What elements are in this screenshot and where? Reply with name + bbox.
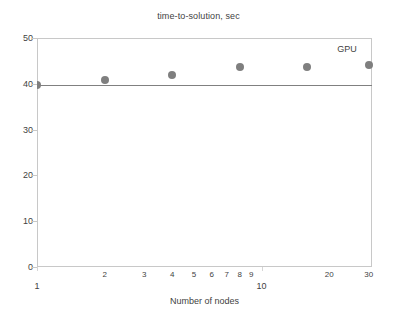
x-tick-label: 6 xyxy=(210,270,214,279)
data-point xyxy=(365,61,373,69)
x-tick-mark xyxy=(262,267,263,271)
series-annotation-gpu: GPU xyxy=(337,44,357,54)
y-tick-mark xyxy=(32,175,37,176)
x-tick-label: 3 xyxy=(142,270,146,279)
y-tick-mark xyxy=(32,221,37,222)
data-point xyxy=(236,63,244,71)
x-tick-label: 30 xyxy=(364,270,373,279)
x-tick-label: 8 xyxy=(238,270,242,279)
data-point xyxy=(37,81,41,89)
y-tick-mark xyxy=(32,130,37,131)
y-tick-mark xyxy=(32,267,37,268)
x-tick-label: 7 xyxy=(225,270,229,279)
x-axis-title: Number of nodes xyxy=(37,296,372,306)
data-point xyxy=(101,76,109,84)
y-tick-label: 10 xyxy=(9,216,33,226)
data-layer xyxy=(37,38,373,267)
y-tick-label: 40 xyxy=(9,79,33,89)
y-tick-label: 0 xyxy=(9,262,33,272)
chart-title: time-to-solution, sec xyxy=(0,11,397,21)
reference-line xyxy=(37,85,372,86)
x-tick-label: 2 xyxy=(102,270,106,279)
data-point xyxy=(168,71,176,79)
x-tick-label: 20 xyxy=(325,270,334,279)
x-tick-label: 4 xyxy=(170,270,174,279)
y-tick-mark xyxy=(32,38,37,39)
chart-container: time-to-solution, sec 01020304050 123456… xyxy=(0,0,397,322)
y-tick-label: 50 xyxy=(9,33,33,43)
x-tick-label: 5 xyxy=(192,270,196,279)
y-tick-label: 30 xyxy=(9,125,33,135)
x-tick-label: 9 xyxy=(249,270,253,279)
data-point xyxy=(303,63,311,71)
x-tick-label: 1 xyxy=(34,281,39,291)
y-tick-label: 20 xyxy=(9,170,33,180)
y-axis: 01020304050 xyxy=(5,0,33,322)
y-tick-mark xyxy=(32,84,37,85)
x-tick-label: 10 xyxy=(257,281,267,291)
x-tick-mark xyxy=(37,267,38,271)
